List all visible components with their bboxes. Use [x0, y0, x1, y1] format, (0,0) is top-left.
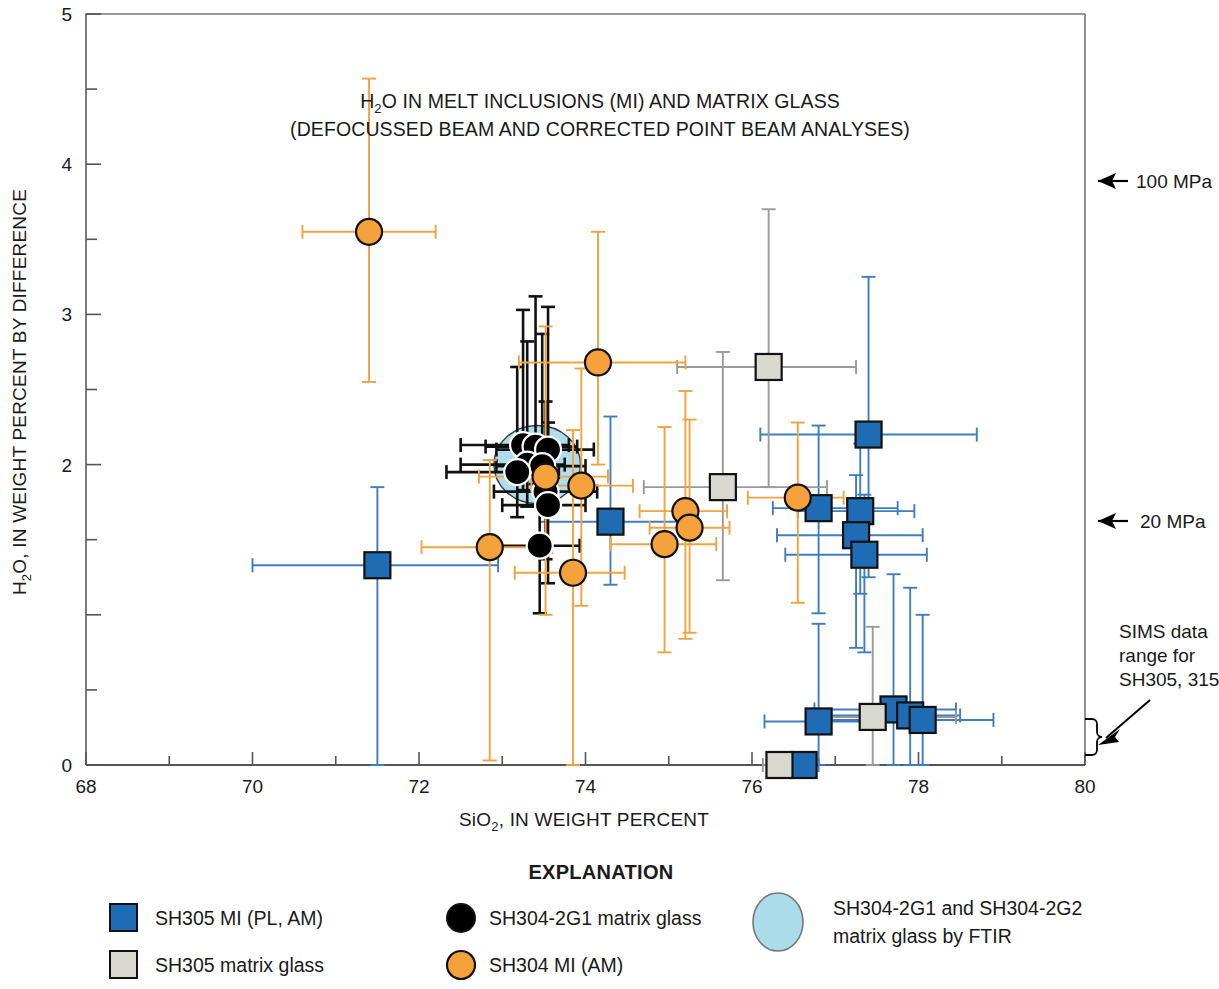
- y-tick-label: 2: [61, 455, 72, 476]
- data-point-square[interactable]: [766, 752, 792, 778]
- data-point-circle[interactable]: [677, 515, 703, 541]
- data-point-circle[interactable]: [356, 219, 382, 245]
- legend-label-sh305-matrix: SH305 matrix glass: [155, 954, 324, 976]
- x-tick-label: 70: [242, 776, 263, 797]
- y-tick-label: 0: [61, 755, 72, 776]
- x-tick-label: 80: [1074, 776, 1095, 797]
- legend-label-sh304-mi: SH304 MI (AM): [489, 954, 623, 976]
- data-point-circle[interactable]: [785, 485, 811, 511]
- data-point-square[interactable]: [910, 707, 936, 733]
- legend-label-sh305-mi: SH305 MI (PL, AM): [155, 907, 323, 929]
- data-point-square[interactable]: [756, 354, 782, 380]
- legend-label-ftir-field-line2: matrix glass by FTIR: [833, 925, 1012, 947]
- data-point-square[interactable]: [597, 509, 623, 535]
- x-tick-label: 76: [741, 776, 762, 797]
- data-point-circle[interactable]: [504, 459, 530, 485]
- y-tick-label: 5: [61, 4, 72, 25]
- sims-label-line3: SH305, 315: [1119, 669, 1219, 690]
- legend-swatch-sh305-mi: [110, 904, 137, 931]
- data-point-square[interactable]: [791, 752, 817, 778]
- data-point-square[interactable]: [847, 498, 873, 524]
- sims-label-line1: SIMS data: [1119, 621, 1208, 642]
- data-point-circle[interactable]: [568, 473, 594, 499]
- data-point-circle[interactable]: [533, 464, 559, 490]
- data-point-circle[interactable]: [527, 533, 553, 559]
- data-point-square[interactable]: [860, 704, 886, 730]
- data-point-circle[interactable]: [477, 534, 503, 560]
- legend-swatch-sh304-2g1-matrix: [447, 904, 475, 932]
- data-point-square[interactable]: [856, 422, 882, 448]
- x-tick-label: 68: [75, 776, 96, 797]
- figure-root: 6870727476788002345 H2O IN MELT INCLUSIO…: [0, 0, 1219, 989]
- data-point-square[interactable]: [364, 552, 390, 578]
- data-point-square[interactable]: [710, 474, 736, 500]
- legend-title: EXPLANATION: [528, 861, 673, 883]
- x-tick-label: 78: [908, 776, 929, 797]
- y-tick-label: 3: [61, 304, 72, 325]
- data-point-square[interactable]: [851, 542, 877, 568]
- data-point-circle[interactable]: [585, 349, 611, 375]
- pressure-label-100mpa: 100 MPa: [1136, 171, 1212, 192]
- data-point-circle[interactable]: [535, 492, 561, 518]
- figure-background: [0, 0, 1219, 989]
- x-tick-label: 74: [575, 776, 597, 797]
- data-point-circle[interactable]: [560, 560, 586, 586]
- data-point-square[interactable]: [806, 708, 832, 734]
- legend-label-sh304-2g1-matrix: SH304-2G1 matrix glass: [489, 907, 702, 929]
- data-point-circle[interactable]: [652, 531, 678, 557]
- chart-title-line2: (DEFOCUSSED BEAM AND CORRECTED POINT BEA…: [290, 118, 910, 140]
- pressure-label-20mpa: 20 MPa: [1140, 511, 1206, 532]
- y-tick-label: 4: [61, 154, 72, 175]
- legend-swatch-ftir-field: [753, 893, 803, 951]
- legend-swatch-sh305-matrix: [110, 951, 137, 978]
- scatter-plot-svg: 6870727476788002345 H2O IN MELT INCLUSIO…: [0, 0, 1219, 989]
- legend-label-ftir-field-line1: SH304-2G1 and SH304-2G2: [833, 897, 1082, 919]
- x-tick-label: 72: [408, 776, 429, 797]
- legend-swatch-sh304-mi: [447, 951, 475, 979]
- sims-label-line2: range for: [1119, 645, 1196, 666]
